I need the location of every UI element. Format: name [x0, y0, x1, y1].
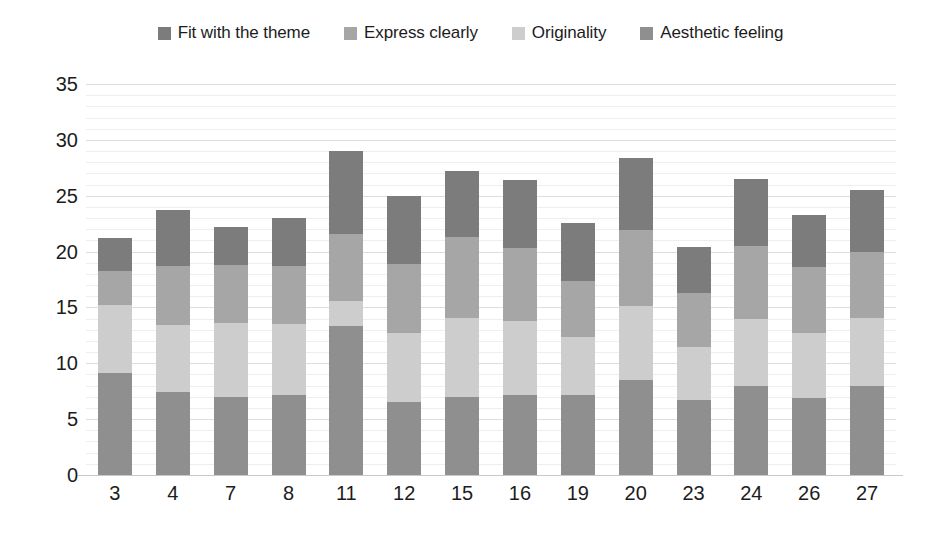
stacked-bar[interactable] — [445, 171, 479, 475]
bar-group — [375, 84, 433, 475]
bar-segment-express-clearly[interactable] — [387, 264, 421, 333]
bar-segment-fit-with-the-theme[interactable] — [272, 218, 306, 266]
bar-segment-aesthetic-feeling[interactable] — [503, 395, 537, 475]
bar-segment-express-clearly[interactable] — [156, 266, 190, 325]
bar-segment-fit-with-the-theme[interactable] — [329, 151, 363, 234]
stacked-bar[interactable] — [214, 227, 248, 475]
x-axis-tick-label: 26 — [780, 482, 838, 522]
bar-segment-aesthetic-feeling[interactable] — [734, 386, 768, 475]
bar-segment-express-clearly[interactable] — [272, 266, 306, 324]
bar-segment-fit-with-the-theme[interactable] — [156, 210, 190, 266]
bar-segment-fit-with-the-theme[interactable] — [850, 190, 884, 251]
legend-swatch-icon-express-clearly — [344, 27, 357, 40]
x-axis-tick-label: 23 — [665, 482, 723, 522]
bar-segment-express-clearly[interactable] — [329, 234, 363, 301]
bar-segment-fit-with-the-theme[interactable] — [561, 223, 595, 281]
bar-segment-express-clearly[interactable] — [677, 293, 711, 347]
legend-item-fit-with-the-theme[interactable]: Fit with the theme — [158, 23, 310, 43]
x-axis-tick-label: 19 — [549, 482, 607, 522]
legend-swatch-icon-aesthetic-feeling — [640, 27, 653, 40]
bar-segment-aesthetic-feeling[interactable] — [619, 380, 653, 475]
stacked-bar[interactable] — [98, 238, 132, 475]
bar-segment-fit-with-the-theme[interactable] — [619, 158, 653, 231]
bar-segment-originality[interactable] — [850, 318, 884, 386]
bar-segment-fit-with-the-theme[interactable] — [677, 247, 711, 293]
bar-segment-fit-with-the-theme[interactable] — [445, 171, 479, 237]
stacked-bar[interactable] — [677, 247, 711, 475]
bar-group — [86, 84, 144, 475]
bar-segment-originality[interactable] — [619, 306, 653, 380]
bar-segment-aesthetic-feeling[interactable] — [445, 397, 479, 475]
y-axis-tick-label: 25 — [56, 184, 78, 207]
bar-segment-fit-with-the-theme[interactable] — [503, 180, 537, 248]
bar-segment-originality[interactable] — [503, 321, 537, 395]
bar-segment-originality[interactable] — [156, 325, 190, 392]
bar-group — [838, 84, 896, 475]
bar-segment-originality[interactable] — [561, 337, 595, 395]
bar-segment-originality[interactable] — [272, 324, 306, 394]
bar-segment-express-clearly[interactable] — [561, 281, 595, 337]
stacked-bar[interactable] — [792, 215, 826, 475]
stacked-bar[interactable] — [387, 196, 421, 475]
bar-segment-aesthetic-feeling[interactable] — [329, 326, 363, 475]
x-axis-tick-label: 12 — [375, 482, 433, 522]
stacked-bar[interactable] — [561, 223, 595, 475]
legend-label-aesthetic-feeling: Aesthetic feeling — [660, 23, 783, 43]
bar-segment-aesthetic-feeling[interactable] — [561, 395, 595, 475]
chart-legend: Fit with the theme Express clearly Origi… — [0, 18, 941, 48]
y-axis-tick-label: 30 — [56, 128, 78, 151]
bar-segment-originality[interactable] — [445, 318, 479, 397]
bar-segment-aesthetic-feeling[interactable] — [272, 395, 306, 475]
bar-segment-express-clearly[interactable] — [503, 248, 537, 321]
bar-segment-fit-with-the-theme[interactable] — [792, 215, 826, 268]
stacked-bar[interactable] — [156, 210, 190, 475]
bar-segment-originality[interactable] — [734, 319, 768, 386]
legend-item-express-clearly[interactable]: Express clearly — [344, 23, 478, 43]
bar-segment-aesthetic-feeling[interactable] — [850, 386, 884, 475]
stacked-bar[interactable] — [850, 190, 884, 475]
bar-segment-aesthetic-feeling[interactable] — [214, 397, 248, 475]
bar-segment-fit-with-the-theme[interactable] — [734, 179, 768, 246]
bar-segment-fit-with-the-theme[interactable] — [387, 196, 421, 264]
bar-segment-aesthetic-feeling[interactable] — [98, 373, 132, 475]
stacked-bar[interactable] — [503, 180, 537, 475]
bar-segment-express-clearly[interactable] — [850, 252, 884, 318]
y-axis-tick-label: 35 — [56, 73, 78, 96]
bar-segment-originality[interactable] — [214, 323, 248, 397]
x-axis-line — [78, 475, 903, 476]
bar-segment-express-clearly[interactable] — [214, 265, 248, 323]
bar-segment-express-clearly[interactable] — [619, 230, 653, 306]
legend-item-aesthetic-feeling[interactable]: Aesthetic feeling — [640, 23, 783, 43]
bar-segment-originality[interactable] — [387, 333, 421, 402]
bar-segment-express-clearly[interactable] — [734, 246, 768, 319]
bar-segment-fit-with-the-theme[interactable] — [214, 227, 248, 265]
bar-segment-express-clearly[interactable] — [792, 267, 826, 333]
stacked-bar[interactable] — [272, 218, 306, 475]
bar-segment-fit-with-the-theme[interactable] — [98, 238, 132, 270]
bar-group — [780, 84, 838, 475]
bar-group — [722, 84, 780, 475]
x-axis-tick-label: 24 — [722, 482, 780, 522]
bar-segment-originality[interactable] — [98, 305, 132, 373]
bar-segment-aesthetic-feeling[interactable] — [156, 392, 190, 475]
bar-series-container — [86, 84, 896, 475]
stacked-bar[interactable] — [619, 158, 653, 475]
legend-item-originality[interactable]: Originality — [512, 23, 606, 43]
x-axis-tick-label: 16 — [491, 482, 549, 522]
stacked-bar[interactable] — [734, 179, 768, 475]
bar-segment-originality[interactable] — [792, 333, 826, 398]
x-axis: 347811121516192023242627 — [86, 482, 896, 522]
y-axis-tick-label: 5 — [67, 408, 78, 431]
bar-segment-aesthetic-feeling[interactable] — [387, 402, 421, 475]
y-axis-tick-label: 0 — [67, 464, 78, 487]
bar-segment-aesthetic-feeling[interactable] — [677, 400, 711, 475]
bar-segment-express-clearly[interactable] — [98, 271, 132, 306]
y-axis: 35302520151050 — [30, 84, 78, 475]
bar-group — [144, 84, 202, 475]
bar-segment-originality[interactable] — [677, 347, 711, 401]
legend-label-originality: Originality — [532, 23, 606, 43]
bar-segment-express-clearly[interactable] — [445, 237, 479, 317]
bar-segment-aesthetic-feeling[interactable] — [792, 398, 826, 475]
stacked-bar[interactable] — [329, 151, 363, 475]
bar-segment-originality[interactable] — [329, 301, 363, 327]
